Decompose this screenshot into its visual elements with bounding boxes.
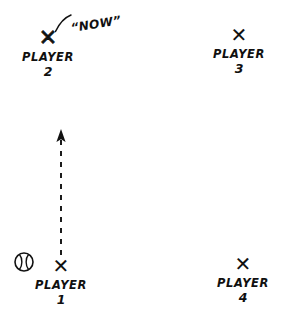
player-label: PLAYER [193, 48, 285, 61]
player-x-icon: ✕ [15, 256, 107, 276]
player-x-icon: ✕ [197, 254, 288, 274]
player-marker-4[interactable]: ✕ PLAYER 4 [197, 254, 288, 305]
player-x-icon: ✕ [193, 25, 285, 45]
player-number: 2 [2, 65, 94, 79]
play-diagram-canvas: “NOW” ✕ PLAYER 1 ✕ PLAYER 2 ✕ PLAYER 3 ✕… [0, 0, 288, 328]
player-marker-2[interactable]: ✕ PLAYER 2 [2, 28, 94, 79]
player-marker-1[interactable]: ✕ PLAYER 1 [15, 256, 107, 307]
player-label: PLAYER [15, 279, 107, 292]
player-number: 4 [197, 291, 288, 305]
player-number: 3 [193, 62, 285, 76]
player-x-icon: ✕ [2, 28, 94, 48]
player-marker-3[interactable]: ✕ PLAYER 3 [193, 25, 285, 76]
player-label: PLAYER [2, 51, 94, 64]
player-number: 1 [15, 293, 107, 307]
throw-arrow-head [56, 129, 65, 142]
player-label: PLAYER [197, 277, 288, 290]
